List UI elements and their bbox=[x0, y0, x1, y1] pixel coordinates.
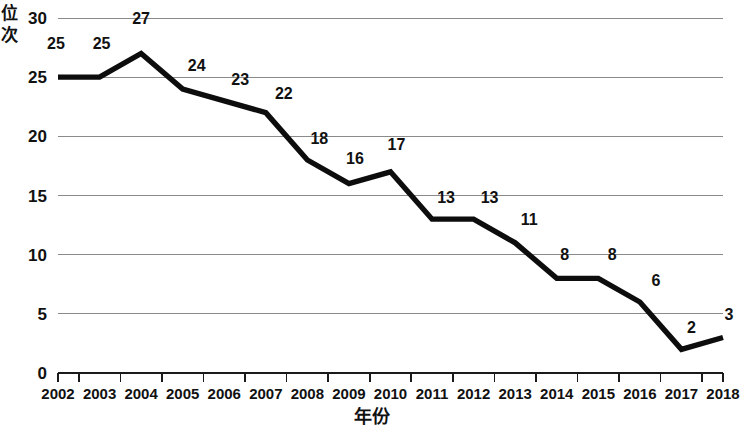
x-tick-label: 2005 bbox=[166, 385, 199, 402]
y-tick-label: 5 bbox=[38, 305, 47, 324]
chart-container: 位 次 051015202530 20022003200420052006200… bbox=[0, 0, 743, 429]
data-label: 8 bbox=[560, 246, 569, 263]
y-tick-label: 25 bbox=[28, 68, 47, 87]
x-tick-label: 2012 bbox=[457, 385, 490, 402]
x-tick-label: 2003 bbox=[83, 385, 116, 402]
data-label: 13 bbox=[437, 189, 455, 206]
x-tick-label: 2011 bbox=[416, 385, 449, 402]
x-tick-label: 2017 bbox=[665, 385, 698, 402]
series-line-位次 bbox=[58, 54, 723, 350]
data-label: 8 bbox=[608, 246, 617, 263]
x-tick-label: 2018 bbox=[706, 385, 739, 402]
data-label: 13 bbox=[481, 189, 499, 206]
x-axis-title: 年份 bbox=[0, 402, 743, 428]
data-label: 16 bbox=[346, 150, 364, 167]
data-label: 25 bbox=[47, 35, 65, 52]
x-tick-label: 2002 bbox=[41, 385, 74, 402]
y-tick-label: 10 bbox=[28, 246, 47, 265]
x-tick-label: 2010 bbox=[374, 385, 407, 402]
data-label: 23 bbox=[231, 71, 249, 88]
x-tick-label: 2008 bbox=[291, 385, 324, 402]
y-tick-labels-group: 051015202530 bbox=[28, 9, 47, 383]
gridlines-group bbox=[58, 18, 723, 314]
series-group bbox=[58, 54, 723, 350]
data-label: 6 bbox=[651, 272, 660, 289]
x-tick-label: 2007 bbox=[249, 385, 282, 402]
data-label: 18 bbox=[310, 130, 328, 147]
x-tick-label: 2014 bbox=[540, 385, 574, 402]
x-tick-label: 2013 bbox=[499, 385, 532, 402]
data-label: 3 bbox=[725, 306, 734, 323]
x-axis-group bbox=[58, 373, 723, 382]
data-label: 11 bbox=[521, 211, 538, 228]
y-tick-label: 20 bbox=[28, 127, 47, 146]
x-tick-label: 2006 bbox=[208, 385, 241, 402]
data-label: 25 bbox=[93, 35, 111, 52]
data-label: 22 bbox=[275, 85, 293, 102]
y-tick-label: 15 bbox=[28, 187, 47, 206]
x-tick-labels-group: 2002200320042005200620072008200920102011… bbox=[41, 385, 739, 402]
data-label: 27 bbox=[132, 10, 150, 27]
x-tick-label: 2009 bbox=[332, 385, 365, 402]
y-tick-label: 30 bbox=[28, 9, 47, 28]
y-tick-label: 0 bbox=[38, 364, 47, 383]
x-tick-label: 2016 bbox=[623, 385, 656, 402]
x-tick-label: 2004 bbox=[124, 385, 158, 402]
data-label: 24 bbox=[188, 57, 206, 74]
data-label: 17 bbox=[388, 136, 406, 153]
data-label: 2 bbox=[687, 319, 696, 336]
line-chart-plot: 051015202530 200220032004200520062007200… bbox=[0, 0, 743, 429]
x-tick-label: 2015 bbox=[582, 385, 615, 402]
